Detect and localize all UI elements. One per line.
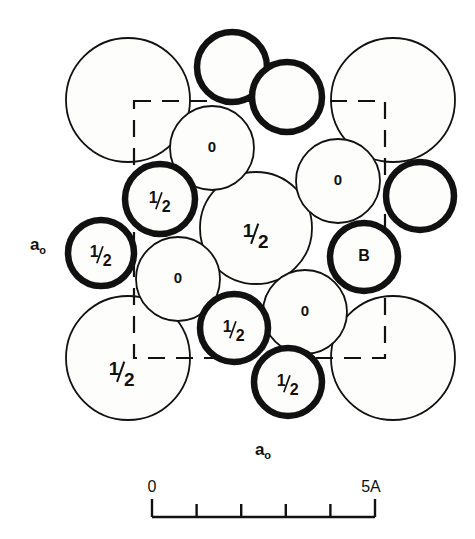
svg-text:1: 1 (109, 358, 120, 379)
atom-zero-lower-right (263, 270, 347, 354)
atom-bold-top-lower (252, 62, 322, 132)
svg-text:2: 2 (290, 381, 299, 398)
figure-root: 121200001212B1212 ao ao 0 5A (0, 0, 475, 539)
crystal-structure-diagram: 121200001212B1212 ao ao 0 5A (0, 0, 475, 539)
scale-end-label: 5A (361, 478, 381, 495)
atom-bold-b-right (330, 223, 398, 291)
svg-text:1: 1 (243, 220, 254, 241)
svg-text:2: 2 (236, 327, 245, 344)
svg-text:2: 2 (258, 231, 269, 252)
scale-start-label: 0 (148, 478, 157, 495)
svg-text:2: 2 (103, 252, 112, 269)
svg-text:1: 1 (223, 318, 232, 335)
svg-text:1: 1 (149, 189, 158, 206)
svg-text:2: 2 (124, 369, 135, 390)
atom-zero-upper-right (296, 139, 380, 223)
svg-text:1: 1 (277, 372, 286, 389)
svg-text:2: 2 (162, 198, 171, 215)
atom-bold-right-edge (386, 162, 454, 230)
svg-text:1: 1 (90, 243, 99, 260)
